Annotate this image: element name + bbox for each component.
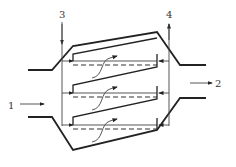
separator-diagram: 3 4 1 2 bbox=[0, 0, 236, 167]
label-2: 2 bbox=[215, 78, 221, 89]
flow-curve-icon bbox=[92, 56, 117, 78]
flow-curve-icon bbox=[92, 119, 117, 142]
stage-3 bbox=[62, 97, 169, 142]
housing-bottom-wall bbox=[28, 98, 206, 150]
label-3: 3 bbox=[59, 9, 65, 20]
housing-top-wall bbox=[28, 32, 206, 70]
flow-curve-icon bbox=[92, 87, 117, 110]
label-1: 1 bbox=[8, 100, 14, 111]
stage-2 bbox=[62, 65, 169, 110]
label-4: 4 bbox=[166, 9, 172, 20]
stage-1 bbox=[62, 38, 169, 78]
